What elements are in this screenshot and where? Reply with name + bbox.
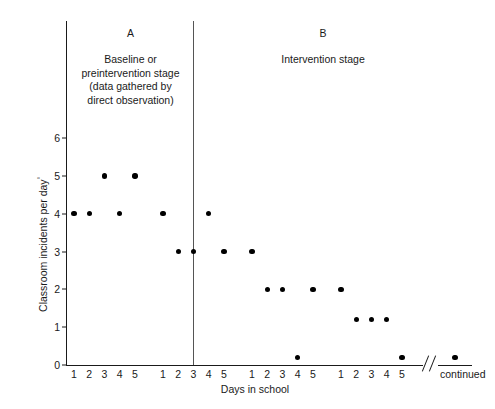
data-point: [221, 249, 226, 254]
data-point: [280, 287, 285, 292]
data-point: [354, 317, 359, 322]
data-point: [295, 355, 300, 360]
figure-canvas: A Baseline or preintervention stage (dat…: [0, 0, 495, 409]
x-axis-title: Days in school: [195, 383, 315, 395]
data-point: [310, 287, 315, 292]
data-point: [399, 355, 404, 360]
continued-label: continued: [440, 368, 486, 380]
axis-break-mask: [423, 362, 438, 368]
data-point: [338, 287, 343, 292]
data-point: [160, 211, 165, 216]
data-point: [71, 211, 76, 216]
data-point: [452, 355, 457, 360]
data-point: [132, 173, 137, 178]
data-point: [87, 211, 92, 216]
data-point: [102, 173, 107, 178]
data-point: [176, 249, 181, 254]
data-point: [206, 211, 211, 216]
data-point: [191, 249, 196, 254]
data-point: [369, 317, 374, 322]
data-point: [117, 211, 122, 216]
data-point: [384, 317, 389, 322]
data-point: [265, 287, 270, 292]
data-point-layer: [0, 0, 495, 409]
data-point: [249, 249, 254, 254]
